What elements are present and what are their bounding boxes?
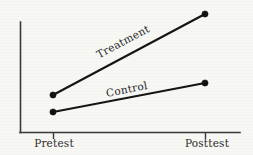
series-marker-control-pretest <box>50 109 56 115</box>
x-tick-label-posttest: Posttest <box>180 137 234 149</box>
line-chart-figure: Treatment Control Pretest Posttest <box>0 0 253 155</box>
series-marker-treatment-pretest <box>50 92 56 98</box>
x-tick-label-pretest: Pretest <box>29 137 79 149</box>
series-marker-treatment-posttest <box>202 11 208 17</box>
chart-plot-area <box>0 0 253 155</box>
series-marker-control-posttest <box>202 80 208 86</box>
